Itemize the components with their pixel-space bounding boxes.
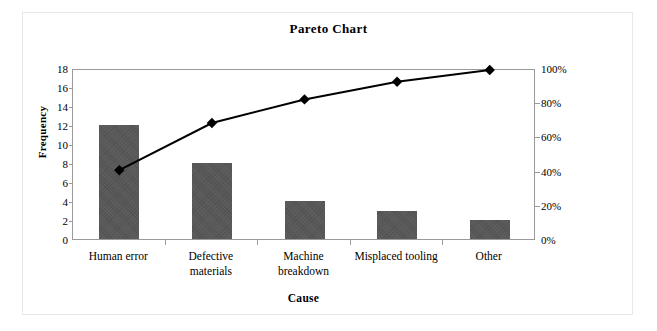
- y-left-tick-label-0: 0: [42, 235, 68, 245]
- plot-area: [72, 69, 535, 240]
- y-left-tick-label-3: 6: [42, 178, 68, 188]
- y-left-tick-label-8: 16: [42, 83, 68, 93]
- pareto-chart-figure: Pareto Chart Frequency 024681012141618 0…: [0, 0, 657, 331]
- cumulative-line-series: [73, 70, 536, 241]
- x-tick-mark-3: [350, 240, 351, 245]
- y-left-tick-label-1: 2: [42, 216, 68, 226]
- chart-title: Pareto Chart: [0, 21, 657, 37]
- x-tick-mark-1: [165, 240, 166, 245]
- y-axis-left: 024681012141618: [34, 69, 68, 240]
- y-left-tick-label-2: 4: [42, 197, 68, 207]
- line-marker-2: [299, 94, 309, 104]
- x-axis-category-labels: Human errorDefectivematerialsMachinebrea…: [72, 249, 535, 291]
- x-axis-ticks: [72, 240, 535, 246]
- y-right-tick-label-2: 40%: [541, 167, 585, 177]
- x-category-label-line: Other: [432, 249, 545, 264]
- y-left-tick-label-6: 12: [42, 121, 68, 131]
- y-right-tick-label-5: 100%: [541, 64, 585, 74]
- x-category-label-line: breakdown: [247, 264, 360, 279]
- y-left-tick-label-4: 8: [42, 159, 68, 169]
- line-marker-1: [207, 118, 217, 128]
- y-left-tick-label-7: 14: [42, 102, 68, 112]
- y-right-tick-label-0: 0%: [541, 235, 585, 245]
- y-right-tick-label-1: 20%: [541, 201, 585, 211]
- x-axis-title: Cause: [72, 292, 535, 304]
- y-left-tick-label-9: 18: [42, 64, 68, 74]
- y-axis-right: 0%20%40%60%80%100%: [541, 69, 591, 240]
- y-right-tick-label-4: 80%: [541, 98, 585, 108]
- line-marker-3: [392, 77, 402, 87]
- y-right-tick-label-3: 60%: [541, 132, 585, 142]
- x-tick-mark-2: [257, 240, 258, 245]
- y-left-tick-label-5: 10: [42, 140, 68, 150]
- x-tick-mark-4: [442, 240, 443, 245]
- x-category-label-4: Other: [432, 249, 545, 264]
- line-marker-0: [114, 165, 124, 175]
- cumulative-line: [119, 70, 489, 170]
